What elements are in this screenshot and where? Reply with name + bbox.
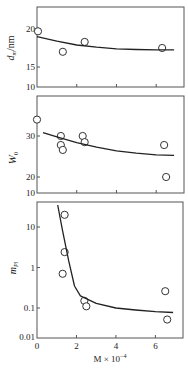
data-point xyxy=(161,141,168,148)
panel1-y-label: dm/nm xyxy=(5,35,17,60)
x-axis-label: M × 10−4 xyxy=(94,353,127,364)
y-tick-label: 20 xyxy=(26,24,36,34)
data-point xyxy=(162,288,169,295)
panel3-y-label: mPl xyxy=(7,261,19,274)
y-tick-label: 10 xyxy=(26,82,36,92)
y-tick-label: 20 xyxy=(26,172,36,182)
data-point xyxy=(59,146,66,153)
panel-3: 0.010.11100246 xyxy=(19,202,183,351)
chart-figure: 1015201020300.010.11100246 M × 10−4 dm/n… xyxy=(0,0,188,374)
y-tick-label: 0.1 xyxy=(24,303,35,313)
x-tick-label: 6 xyxy=(153,341,158,351)
y-tick-label: 10 xyxy=(26,222,36,232)
panel2-y-label: W0 xyxy=(6,151,20,164)
data-point xyxy=(59,270,66,277)
panel-2: 102030 xyxy=(26,96,184,198)
x-tick-label: 4 xyxy=(114,341,119,351)
y-tick-label: 15 xyxy=(26,62,36,72)
fit-curve xyxy=(37,37,174,50)
data-point xyxy=(34,28,41,35)
panel-1: 101520 xyxy=(26,7,184,92)
data-point xyxy=(164,316,171,323)
data-point xyxy=(61,211,68,218)
data-point xyxy=(59,48,66,55)
plot-frame xyxy=(37,202,183,338)
x-tick-label: 2 xyxy=(74,341,79,351)
data-point xyxy=(163,173,170,180)
y-tick-label: 1 xyxy=(31,263,36,273)
y-tick-label: 30 xyxy=(26,131,36,141)
y-tick-label: 0.01 xyxy=(19,332,35,342)
y-tick-label: 10 xyxy=(26,188,36,198)
data-point xyxy=(81,38,88,45)
x-tick-label: 0 xyxy=(35,341,40,351)
data-point xyxy=(83,303,90,310)
data-point xyxy=(33,116,40,123)
fit-curve xyxy=(58,205,173,313)
